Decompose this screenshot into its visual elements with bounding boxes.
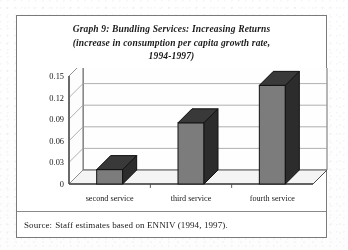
chart-title: Graph 9: Bundling Services: Increasing R…	[17, 16, 326, 64]
x-axis-category-label: third service	[171, 194, 212, 203]
chart-title-line-2: (increase in consumption per capita grow…	[31, 37, 312, 51]
source-text: Staff estimates based on ENNIV (1994, 19…	[55, 220, 228, 230]
y-axis-tick-label: 0.12	[49, 94, 64, 103]
chart-title-line-3: 1994-1997)	[31, 50, 312, 64]
y-axis-tick-label: 0.15	[49, 72, 64, 81]
source-note: Source: Staff estimates based on ENNIV (…	[17, 212, 326, 238]
x-axis-category-label: second service	[86, 194, 134, 203]
bar-3	[259, 71, 299, 184]
y-axis-tick-label: 0.06	[49, 137, 64, 146]
y-axis-tick-label: 0.09	[49, 115, 64, 124]
x-axis-category-label: fourth service	[250, 194, 296, 203]
plot-area: 00.030.060.090.120.15second servicethird…	[17, 68, 328, 218]
bar-2	[178, 109, 218, 184]
y-axis-tick-label: 0.03	[49, 158, 64, 167]
source-label: Source:	[24, 220, 52, 230]
chart-panel: Graph 9: Bundling Services: Increasing R…	[17, 16, 326, 212]
y-axis-tick-label: 0	[60, 180, 64, 189]
chart-title-line-1: Graph 9: Bundling Services: Increasing R…	[31, 23, 312, 37]
bar-chart-svg: 00.030.060.090.120.15second servicethird…	[17, 68, 328, 218]
figure-container: Graph 9: Bundling Services: Increasing R…	[16, 15, 327, 238]
